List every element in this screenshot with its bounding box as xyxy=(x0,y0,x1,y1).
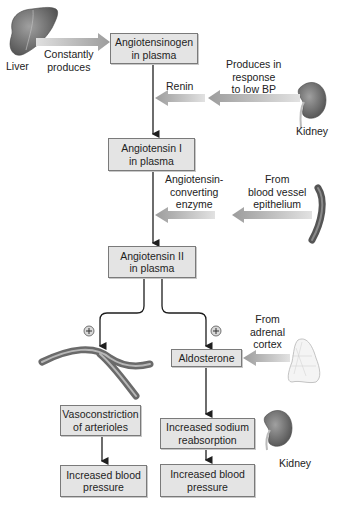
kidney-label-bottom: Kidney xyxy=(279,457,311,470)
renin-label: Renin xyxy=(166,80,193,93)
aldosterone-box: Aldosterone xyxy=(171,349,242,367)
branch-right-line xyxy=(162,278,206,346)
plus-icon-right xyxy=(211,326,221,336)
kidney-label-top: Kidney xyxy=(296,125,328,138)
angiotensinogen-box: Angiotensinogen in plasma xyxy=(110,33,198,64)
sodium-reabsorption-box: Increased sodium reabsorption xyxy=(160,418,255,449)
adrenal-gland-icon xyxy=(288,339,320,383)
plus-icon-left xyxy=(84,326,94,336)
angiotensin-2-box: Angiotensin II in plasma xyxy=(108,246,196,278)
liver-label: Liver xyxy=(6,60,29,73)
blood-pressure-box-left: Increased blood pressure xyxy=(60,465,147,497)
angiotensin-1-box: Angiotensin I in plasma xyxy=(108,138,195,171)
adrenal-to-aldosterone-arrow xyxy=(243,350,290,366)
ace-source-label: From blood vessel epithelium xyxy=(248,173,306,211)
arterioles-icon xyxy=(42,350,150,396)
kidney-icon-top xyxy=(298,82,326,128)
blood-pressure-box-right: Increased blood pressure xyxy=(160,464,255,497)
vasoconstriction-box: Vasoconstriction of arterioles xyxy=(60,405,141,436)
branch-left-line xyxy=(100,278,144,346)
constantly-produces-label: Constantly produces xyxy=(44,48,94,73)
ace-label: Angiotensin- converting enzyme xyxy=(165,173,223,211)
aldosterone-source-label: From adrenal cortex xyxy=(250,313,285,351)
kidney-icon-bottom xyxy=(264,410,292,450)
renin-source-label: Produces in response to low BP xyxy=(226,58,281,96)
